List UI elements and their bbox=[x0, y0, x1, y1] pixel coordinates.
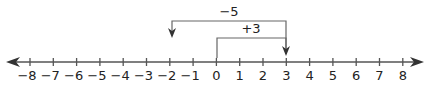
number-line: −8−7−6−5−4−3−2−1012345678 bbox=[6, 57, 424, 83]
tick-label: 5 bbox=[329, 68, 337, 83]
tick-label: −8 bbox=[17, 68, 36, 83]
op-label-plus-three: +3 bbox=[241, 21, 260, 36]
tick-label: −4 bbox=[111, 68, 130, 83]
number-line-diagram: −8−7−6−5−4−3−2−1012345678 −5 +3 bbox=[0, 0, 429, 91]
tick-label: −5 bbox=[87, 68, 106, 83]
tick-label: −6 bbox=[64, 68, 83, 83]
tick-label: 2 bbox=[259, 68, 267, 83]
minus-five-jump: −5 bbox=[168, 4, 286, 54]
tick-label: 8 bbox=[399, 68, 407, 83]
tick-label: 3 bbox=[282, 68, 290, 83]
tick-label: 6 bbox=[352, 68, 360, 83]
tick-label: 0 bbox=[212, 68, 220, 83]
tick-label: −2 bbox=[157, 68, 176, 83]
plus-three-jump: +3 bbox=[217, 21, 290, 58]
tick-label: 7 bbox=[375, 68, 383, 83]
tick-label: −3 bbox=[134, 68, 153, 83]
tick-labels: −8−7−6−5−4−3−2−1012345678 bbox=[17, 68, 407, 83]
tick-label: −1 bbox=[181, 68, 200, 83]
op-label-minus-five: −5 bbox=[219, 4, 238, 19]
tick-label: −7 bbox=[41, 68, 60, 83]
tick-label: 1 bbox=[236, 68, 244, 83]
tick-label: 4 bbox=[305, 68, 313, 83]
